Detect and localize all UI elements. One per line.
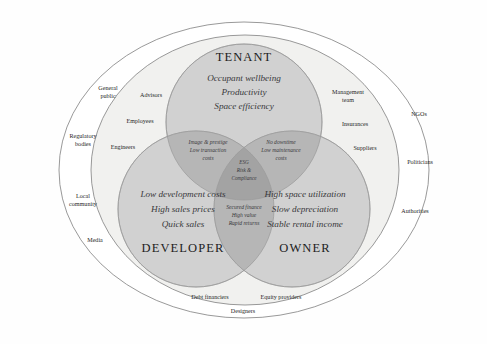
- venn-diagram-graphic: [0, 0, 487, 344]
- diagram-canvas: TENANT Occupant wellbeing Productivity S…: [0, 0, 487, 344]
